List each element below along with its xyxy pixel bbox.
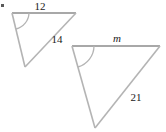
right-triangle-right-label: 21 [131,91,142,103]
geometry-figure: 12 14 m 21 [0,0,166,132]
left-triangle-right-side [25,13,76,67]
left-triangle-angle-arc [16,13,29,29]
corner-tick-icon [1,4,4,7]
right-triangle [72,46,160,128]
left-triangle-top-label: 12 [35,0,46,12]
left-triangle-right-label: 14 [52,33,64,45]
right-triangle-left-side [72,46,95,128]
left-triangle-left-side [12,13,25,67]
right-triangle-right-side [95,46,160,128]
right-triangle-angle-arc [78,46,94,67]
triangles-canvas: 12 14 m 21 [0,0,166,132]
right-triangle-top-label: m [113,32,121,44]
left-triangle [12,13,76,67]
